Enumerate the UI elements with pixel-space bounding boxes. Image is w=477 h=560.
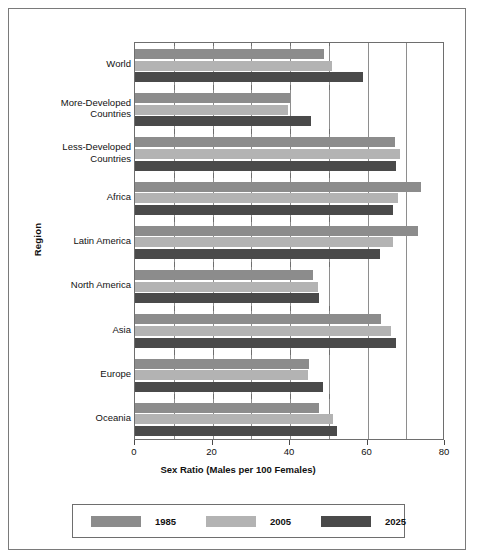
bar [135,403,319,413]
legend-swatch [321,516,371,527]
bar [135,249,380,259]
minor-tick [174,217,175,222]
minor-tick [251,306,252,311]
legend-label: 2005 [270,516,291,527]
bar-group [135,264,443,308]
minor-tick [290,217,291,222]
minor-tick [213,217,214,222]
x-tick [367,440,368,445]
x-tick [212,440,213,445]
minor-tick [174,42,175,46]
category-label: Less-DevelopedCountries [39,141,131,164]
legend-label: 2025 [385,516,406,527]
minor-tick [290,129,291,134]
plot-wrapper: Region WorldMore-DevelopedCountriesLess-… [9,9,467,489]
minor-tick [174,85,175,90]
minor-tick [329,350,330,355]
bar [135,370,308,380]
x-tick-label: 20 [206,446,217,457]
minor-tick [251,42,252,46]
minor-tick [329,262,330,267]
bar [135,93,290,103]
bar [135,72,363,82]
bar [135,226,418,236]
category-label: Latin America [39,235,131,247]
bar-group [135,87,443,131]
x-tick-label: 40 [284,446,295,457]
bar [135,137,395,147]
x-axis-title: Sex Ratio (Males per 100 Females) [9,464,467,475]
minor-tick [329,173,330,178]
plot-area [134,42,444,440]
minor-tick [329,85,330,90]
minor-tick [251,394,252,399]
bar [135,270,313,280]
minor-tick [213,394,214,399]
legend-swatch [206,516,256,527]
category-label: Europe [39,368,131,380]
bar-group [135,397,443,440]
minor-tick [329,306,330,311]
minor-tick [213,262,214,267]
legend-item: 2005 [206,515,291,528]
minor-tick [329,217,330,222]
minor-tick [174,306,175,311]
minor-tick [251,129,252,134]
bar [135,205,393,215]
bar [135,105,288,115]
legend-swatch [91,516,141,527]
category-label: North America [39,279,131,291]
minor-tick [290,350,291,355]
minor-tick [174,262,175,267]
legend-label: 1985 [155,516,176,527]
minor-tick [251,217,252,222]
x-tick-label: 80 [439,446,450,457]
bar [135,314,381,324]
bar-group [135,353,443,397]
bar-group [135,131,443,175]
category-label: Asia [39,324,131,336]
bar-group [135,220,443,264]
minor-tick [174,173,175,178]
bar [135,116,311,126]
minor-tick [290,394,291,399]
minor-tick [174,394,175,399]
x-tick [134,440,135,445]
legend-item: 2025 [321,515,406,528]
bar [135,282,318,292]
bar-group [135,176,443,220]
minor-tick [290,173,291,178]
bar [135,326,391,336]
minor-tick [290,262,291,267]
minor-tick [290,306,291,311]
bar [135,61,332,71]
x-tick [444,440,445,445]
category-label: World [39,58,131,70]
bar [135,293,319,303]
legend-item: 1985 [91,515,176,528]
minor-tick [329,42,330,46]
minor-tick [251,85,252,90]
minor-tick [329,394,330,399]
category-label: Africa [39,191,131,203]
minor-tick [213,129,214,134]
minor-tick [174,129,175,134]
category-label: Oceania [39,412,131,424]
bar [135,193,398,203]
chart-figure: Region WorldMore-DevelopedCountriesLess-… [8,8,466,550]
minor-tick [174,350,175,355]
bar [135,426,337,436]
minor-tick [213,85,214,90]
category-label: More-DevelopedCountries [39,97,131,120]
minor-tick [213,306,214,311]
bar [135,359,309,369]
minor-tick [329,129,330,134]
bar [135,414,333,424]
minor-tick [213,350,214,355]
bar [135,49,324,59]
minor-tick [251,350,252,355]
minor-tick [213,173,214,178]
minor-tick [290,85,291,90]
x-tick-label: 0 [131,446,136,457]
bar [135,338,396,348]
